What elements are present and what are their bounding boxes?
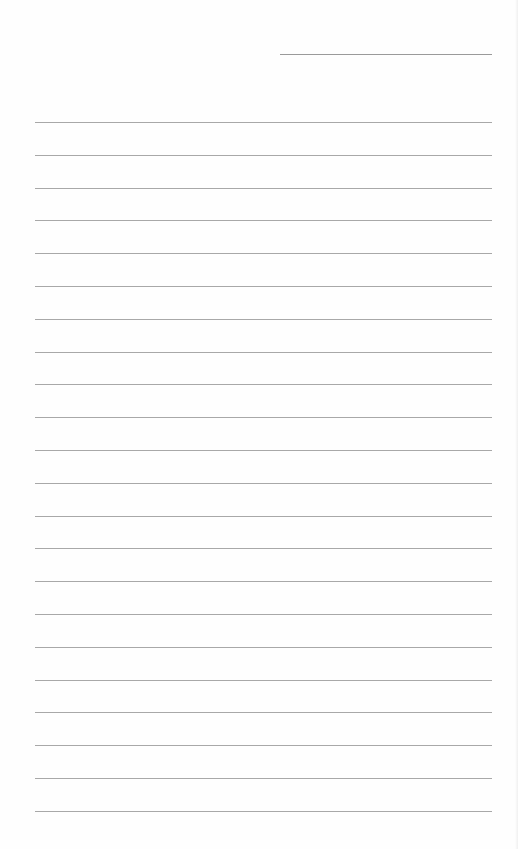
ruled-line: [35, 581, 492, 582]
ruled-line: [35, 483, 492, 484]
ruled-line: [35, 155, 492, 156]
ruled-line: [35, 712, 492, 713]
ruled-line: [35, 319, 492, 320]
ruled-line: [35, 253, 492, 254]
ruled-line: [35, 122, 492, 123]
ruled-line: [35, 811, 492, 812]
ruled-line: [35, 352, 492, 353]
ruled-line: [35, 548, 492, 549]
ruled-line: [35, 516, 492, 517]
ruled-line: [35, 778, 492, 779]
ruled-line: [35, 647, 492, 648]
ruled-line: [35, 188, 492, 189]
ruled-line: [35, 384, 492, 385]
ruled-line: [35, 745, 492, 746]
ruled-line: [35, 450, 492, 451]
ruled-line: [35, 286, 492, 287]
ruled-line: [35, 680, 492, 681]
ruled-line: [35, 220, 492, 221]
ruled-line: [35, 417, 492, 418]
header-line: [280, 54, 492, 55]
ruled-line: [35, 614, 492, 615]
